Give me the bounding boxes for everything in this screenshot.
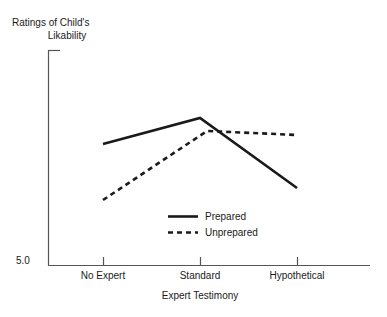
x-tick-label-no-expert: No Expert (81, 270, 125, 281)
legend-label-prepared: Prepared (205, 211, 246, 222)
x-tick-label-hypothetical: Hypothetical (269, 270, 324, 281)
chart-figure: Ratings of Child's Likability 5.0 No Exp… (0, 0, 387, 317)
series-line-prepared (103, 118, 297, 188)
y-axis-tick-label-bottom: 5.0 (16, 255, 30, 267)
series-line-unprepared (103, 131, 298, 200)
x-axis-title: Expert Testimony (162, 290, 239, 302)
x-tick-label-standard: Standard (180, 270, 221, 281)
legend-label-unprepared: Unprepared (205, 227, 258, 238)
